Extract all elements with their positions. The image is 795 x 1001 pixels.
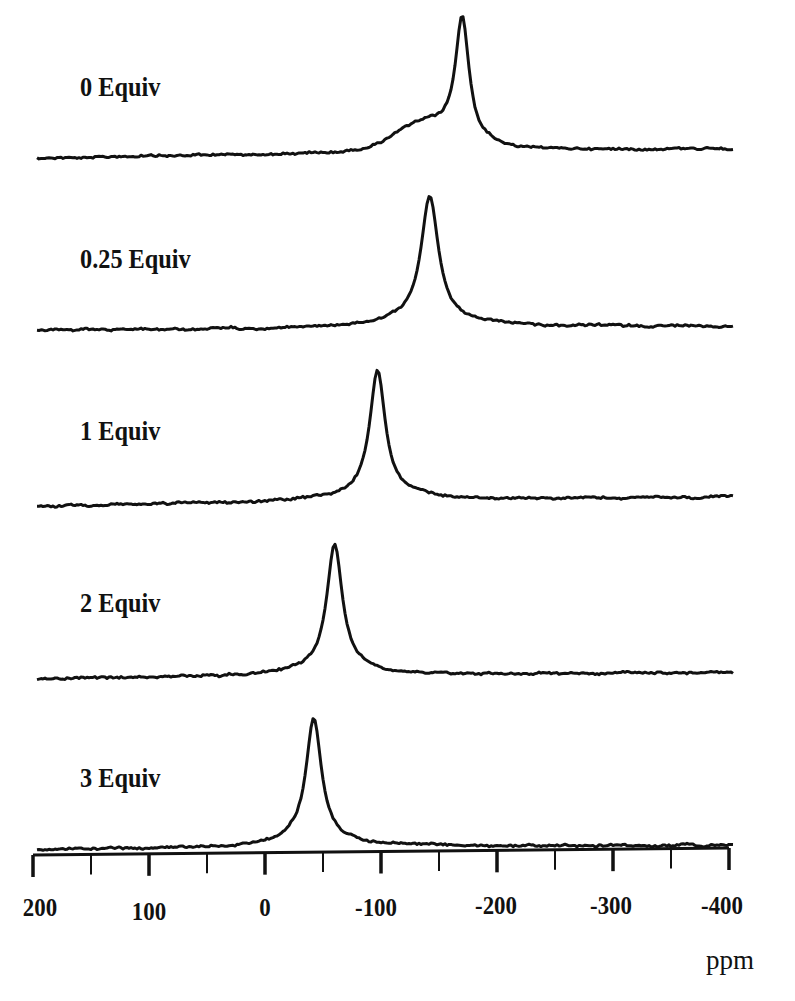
trace-label-1-equiv: 1 Equiv: [80, 416, 160, 447]
x-tick-label-m100: -100: [355, 893, 397, 923]
trace-label-0-25-equiv: 0.25 Equiv: [80, 244, 191, 275]
x-tick-label-m200: -200: [475, 891, 517, 921]
x-tick-label-0: 0: [259, 893, 270, 923]
x-tick-label-m300: -300: [590, 891, 632, 921]
trace-label-2-equiv: 2 Equiv: [80, 588, 160, 619]
nmr-stacked-spectra-figure: 0 Equiv 0.25 Equiv 1 Equiv 2 Equiv 3 Equ…: [0, 0, 795, 1001]
trace-label-0-equiv: 0 Equiv: [80, 72, 160, 103]
x-axis-unit-label: ppm: [706, 945, 754, 976]
trace-label-3-equiv: 3 Equiv: [80, 763, 160, 794]
spectra-plot: [0, 0, 795, 1001]
x-tick-label-m400: -400: [701, 891, 743, 921]
x-axis: [33, 848, 729, 877]
x-tick-label-200: 200: [23, 893, 57, 923]
x-tick-label-100: 100: [132, 897, 166, 927]
